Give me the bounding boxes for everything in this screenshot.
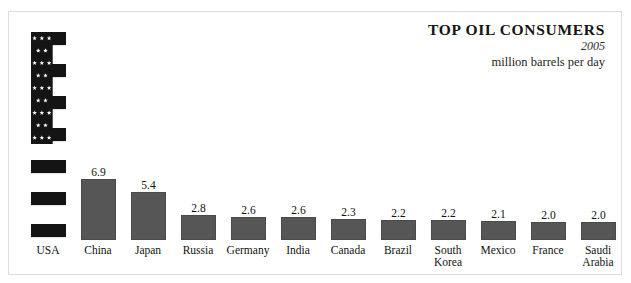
bar-category-label-line1: Saudi (570, 244, 626, 256)
bar-category-label-line1: China (70, 244, 126, 256)
bar-india: 2.6 (281, 217, 316, 240)
bar-category-label: Russia (170, 244, 226, 256)
bar-category-label: SaudiArabia (570, 244, 626, 269)
bar-japan: 5.4 (131, 192, 166, 240)
bar-category-label: Canada (320, 244, 376, 256)
bar-group: 2.3Canada (323, 219, 373, 240)
bar-value-label: 5.4 (132, 180, 165, 192)
bar-category-label-line1: Brazil (370, 244, 426, 256)
bar-value-label: 2.2 (382, 208, 415, 220)
bar-category-label-line1: France (520, 244, 576, 256)
bar-group: 2.6India (273, 217, 323, 240)
bar-mexico: 2.1 (481, 221, 516, 240)
bar-category-label-line2: Arabia (570, 256, 626, 268)
bar-category-label: Mexico (470, 244, 526, 256)
bar-category-label: Japan (120, 244, 176, 256)
bar-category-label-line1: Japan (120, 244, 176, 256)
bar-group: 2.2Brazil (373, 220, 423, 240)
bar-category-label-line1: USA (20, 244, 76, 256)
bar-canada: 2.3 (331, 219, 366, 240)
bar-france: 2.0 (531, 222, 566, 240)
bar-category-label-line1: India (270, 244, 326, 256)
bar-category-label-line1: Germany (220, 244, 276, 256)
bar-category-label: Germany (220, 244, 276, 256)
bar-category-label: SouthKorea (420, 244, 476, 269)
bar-group: 5.4Japan (123, 192, 173, 240)
bar-value-label: 2.8 (182, 203, 215, 215)
bar-category-label-line1: Mexico (470, 244, 526, 256)
bar-value-label: 2.2 (432, 208, 465, 220)
bar-group: 2.0SaudiArabia (573, 222, 623, 240)
bar-value-label: 2.3 (332, 207, 365, 219)
bar-group: 2.8Russia (173, 215, 223, 240)
bar-category-label: India (270, 244, 326, 256)
bar-value-label: 2.1 (482, 209, 515, 221)
bar-saudi-arabia: 2.0 (581, 222, 616, 240)
bar-usa: 20.7 (31, 32, 66, 240)
bar-group: 2.2SouthKorea (423, 220, 473, 240)
bar-south-korea: 2.2 (431, 220, 466, 240)
chart-card: TOP OIL CONSUMERS 2005 million barrels p… (8, 11, 622, 275)
bar-value-label: 2.6 (282, 205, 315, 217)
bar-value-label: 2.0 (532, 210, 565, 222)
bar-category-label: Brazil (370, 244, 426, 256)
bar-china: 6.9 (81, 179, 116, 240)
bar-value-label: 2.6 (232, 205, 265, 217)
bar-chart-plot-area: 20.7USA6.9China5.4Japan2.8Russia2.6Germa… (9, 12, 623, 276)
bar-category-label: USA (20, 244, 76, 256)
bar-group: 2.0France (523, 222, 573, 240)
bar-germany: 2.6 (231, 217, 266, 240)
bar-category-label: China (70, 244, 126, 256)
bar-group: 6.9China (73, 179, 123, 240)
bar-group: 2.1Mexico (473, 221, 523, 240)
bar-category-label-line2: Korea (420, 256, 476, 268)
bar-group: 2.6Germany (223, 217, 273, 240)
bar-value-label: 2.0 (582, 210, 615, 222)
bar-russia: 2.8 (181, 215, 216, 240)
bar-value-label: 6.9 (82, 167, 115, 179)
bar-category-label-line1: Russia (170, 244, 226, 256)
bar-brazil: 2.2 (381, 220, 416, 240)
bar-category-label: France (520, 244, 576, 256)
bar-category-label-line1: Canada (320, 244, 376, 256)
bar-group: 20.7USA (23, 32, 73, 240)
bar-category-label-line1: South (420, 244, 476, 256)
